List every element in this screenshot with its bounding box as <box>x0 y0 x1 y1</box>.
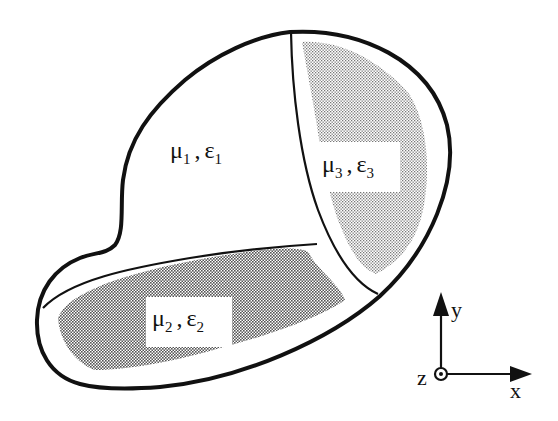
region-1-label: μ1,ε1 <box>170 137 222 167</box>
z-axis-label: z <box>417 365 427 390</box>
svg-text:μ2,ε2: μ2,ε2 <box>152 305 204 335</box>
svg-text:μ3,ε3: μ3,ε3 <box>322 151 374 181</box>
diagram-canvas: μ1,ε1 μ3,ε3 μ2,ε2 y x z <box>0 0 558 421</box>
region-2-label: μ2,ε2 <box>152 305 204 335</box>
y-axis-label: y <box>451 297 462 322</box>
y-arrow-icon <box>433 292 449 316</box>
svg-text:μ1,ε1: μ1,ε1 <box>170 137 222 167</box>
coordinate-axes: y x z <box>417 292 532 403</box>
region-3-label: μ3,ε3 <box>322 151 374 181</box>
x-axis-label: x <box>510 378 521 403</box>
